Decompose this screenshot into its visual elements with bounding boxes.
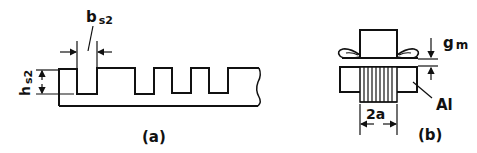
slot-width-dimension <box>60 26 112 52</box>
slot-profile <box>59 68 259 106</box>
left-coil-loop <box>339 49 360 58</box>
figure-a-slotted-core <box>36 41 260 106</box>
gap-label: gm <box>443 34 468 52</box>
material-label: Al <box>436 96 453 114</box>
right-coil-loop <box>397 49 418 58</box>
diagram-canvas: bs2 hs2 (a) <box>0 0 477 153</box>
upper-core <box>360 30 397 58</box>
break-line <box>257 68 261 106</box>
caption-b: (b) <box>418 126 442 144</box>
caption-a: (a) <box>142 128 166 146</box>
hatched-conductor <box>360 67 397 102</box>
width-label: 2a <box>366 106 385 122</box>
slot-width-label: bs2 <box>86 8 113 27</box>
slot-height-label: hs2 <box>17 70 35 96</box>
material-leader-line <box>413 82 432 98</box>
gap-dimension <box>418 38 438 80</box>
